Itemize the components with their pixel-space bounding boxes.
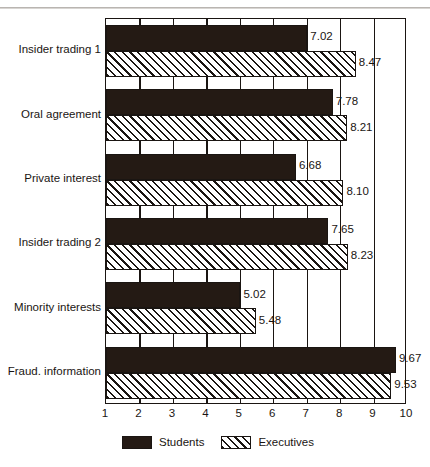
hatched-swatch — [221, 436, 251, 449]
category-label: Minority interests — [0, 302, 105, 314]
x-tick-label-10: 10 — [400, 408, 413, 420]
x-tick-label-6: 6 — [269, 408, 275, 420]
bar-group — [106, 212, 405, 276]
category-label: Insider trading 2 — [0, 237, 105, 249]
legend-label: Students — [159, 437, 204, 449]
grouped-bar-chart: Insider trading 1Oral agreementPrivate i… — [0, 0, 430, 467]
bar-students — [106, 282, 240, 308]
category-label: Fraud. information — [0, 366, 105, 378]
value-label-students: 9.67 — [399, 353, 421, 365]
solid-black-swatch — [122, 436, 152, 449]
value-label-students: 7.02 — [310, 31, 332, 43]
value-label-executives: 8.10 — [346, 186, 368, 198]
legend-item: Students — [122, 436, 204, 449]
x-tick-label-2: 2 — [135, 408, 141, 420]
value-label-executives: 9.53 — [394, 379, 416, 391]
bar-group — [106, 276, 405, 340]
value-label-executives: 5.48 — [259, 315, 281, 327]
category-label: Private interest — [0, 173, 105, 185]
category-label: Insider trading 1 — [0, 44, 105, 56]
bar-students — [106, 218, 328, 244]
bar-group — [106, 341, 405, 405]
bar-students — [106, 347, 396, 373]
bar-group — [106, 148, 405, 212]
legend-item: Executives — [221, 436, 314, 449]
value-label-executives: 8.21 — [350, 122, 372, 134]
bar-executives — [106, 308, 256, 334]
x-tick-label-5: 5 — [236, 408, 242, 420]
bar-rows — [106, 19, 405, 403]
bar-executives — [106, 373, 391, 399]
bar-executives — [106, 180, 343, 206]
chart-legend: StudentsExecutives — [0, 436, 430, 458]
bar-students — [106, 25, 307, 51]
value-label-executives: 8.23 — [351, 250, 373, 262]
x-tick-label-7: 7 — [302, 408, 308, 420]
bar-executives — [106, 244, 348, 270]
plot-area — [105, 18, 406, 404]
bar-executives — [106, 115, 347, 141]
x-tick-label-3: 3 — [169, 408, 175, 420]
value-label-students: 7.65 — [331, 224, 353, 236]
x-tick-label-9: 9 — [369, 408, 375, 420]
bar-group — [106, 19, 405, 83]
bar-group — [106, 83, 405, 147]
bar-students — [106, 89, 333, 115]
legend-label: Executives — [258, 437, 314, 449]
value-label-students: 7.78 — [336, 96, 358, 108]
value-label-students: 5.02 — [243, 289, 265, 301]
category-label: Oral agreement — [0, 109, 105, 121]
x-tick-label-8: 8 — [336, 408, 342, 420]
value-label-students: 6.68 — [299, 160, 321, 172]
x-tick-label-1: 1 — [102, 408, 108, 420]
x-tick-label-4: 4 — [202, 408, 208, 420]
bar-executives — [106, 51, 356, 77]
value-label-executives: 8.47 — [359, 57, 381, 69]
bar-students — [106, 154, 296, 180]
